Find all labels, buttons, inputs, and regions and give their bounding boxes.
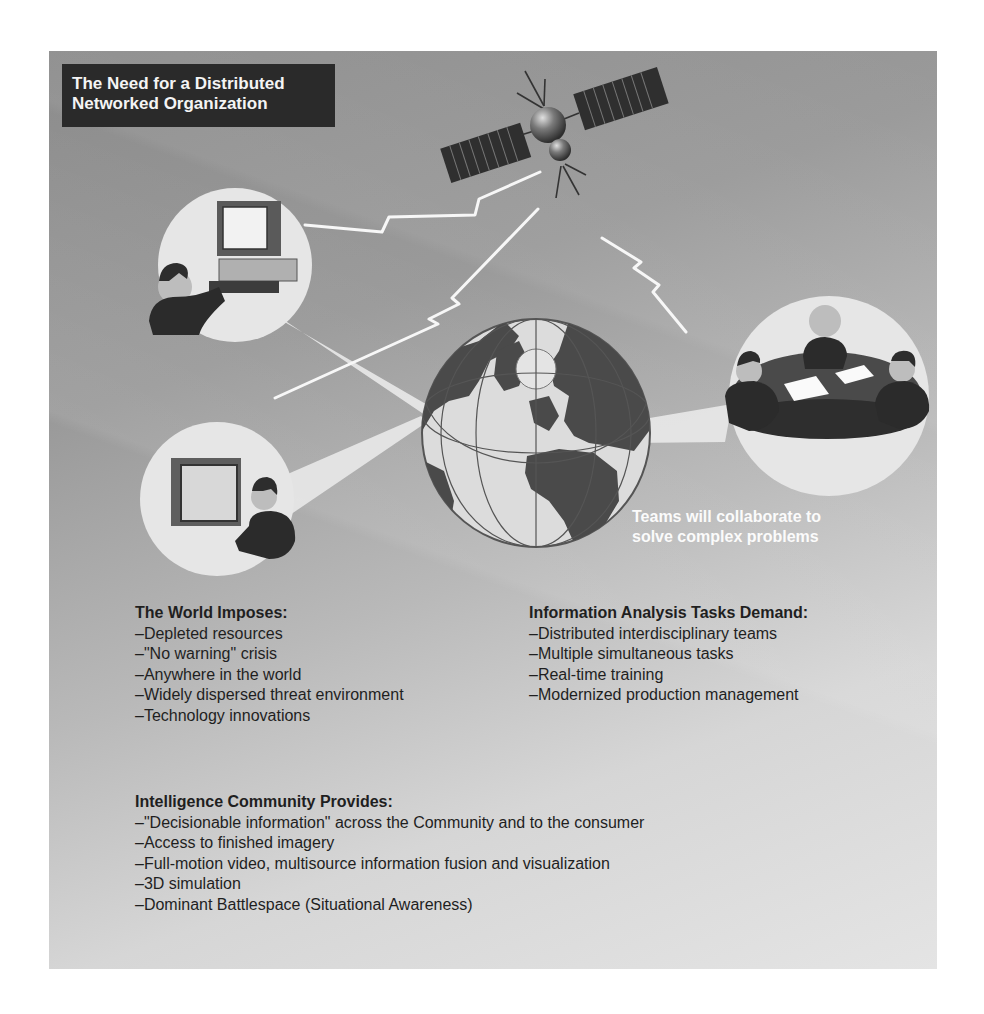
title-line-2: Networked Organization bbox=[72, 94, 335, 114]
caption-line-1: Teams will collaborate to bbox=[632, 507, 821, 527]
list-item: –3D simulation bbox=[135, 874, 644, 895]
title-banner: The Need for a Distributed Networked Org… bbox=[62, 64, 335, 127]
section-ic-provides: Intelligence Community Provides: –"Decis… bbox=[135, 792, 644, 915]
section-world-imposes: The World Imposes: –Depleted resources –… bbox=[135, 603, 404, 726]
caption-line-2: solve complex problems bbox=[632, 527, 821, 547]
list-item: –Full-motion video, multisource informat… bbox=[135, 854, 644, 875]
list-item: –Multiple simultaneous tasks bbox=[529, 644, 808, 665]
list-item: –Real-time training bbox=[529, 665, 808, 686]
section-heading: Information Analysis Tasks Demand: bbox=[529, 603, 808, 624]
analyst-display-bubble bbox=[140, 422, 295, 576]
section-info-analysis-demands: Information Analysis Tasks Demand: –Dist… bbox=[529, 603, 808, 706]
globe-icon bbox=[422, 303, 651, 547]
analyst-workstation-bubble bbox=[149, 188, 312, 342]
list-item: –Access to finished imagery bbox=[135, 833, 644, 854]
list-item: –Widely dispersed threat environment bbox=[135, 685, 404, 706]
infographic-panel: The Need for a Distributed Networked Org… bbox=[49, 51, 937, 969]
list-item: –"No warning" crisis bbox=[135, 644, 404, 665]
title-line-1: The Need for a Distributed bbox=[72, 74, 335, 94]
section-heading: The World Imposes: bbox=[135, 603, 404, 624]
list-item: –Depleted resources bbox=[135, 624, 404, 645]
list-item: –Technology innovations bbox=[135, 706, 404, 727]
list-item: –Dominant Battlespace (Situational Aware… bbox=[135, 895, 644, 916]
list-item: –Modernized production management bbox=[529, 685, 808, 706]
team-table-bubble bbox=[725, 296, 929, 496]
section-heading: Intelligence Community Provides: bbox=[135, 792, 644, 813]
team-caption: Teams will collaborate to solve complex … bbox=[632, 507, 821, 547]
list-item: –Distributed interdisciplinary teams bbox=[529, 624, 808, 645]
list-item: –Anywhere in the world bbox=[135, 665, 404, 686]
satellite-icon bbox=[440, 67, 668, 198]
list-item: –"Decisionable information" across the C… bbox=[135, 813, 644, 834]
